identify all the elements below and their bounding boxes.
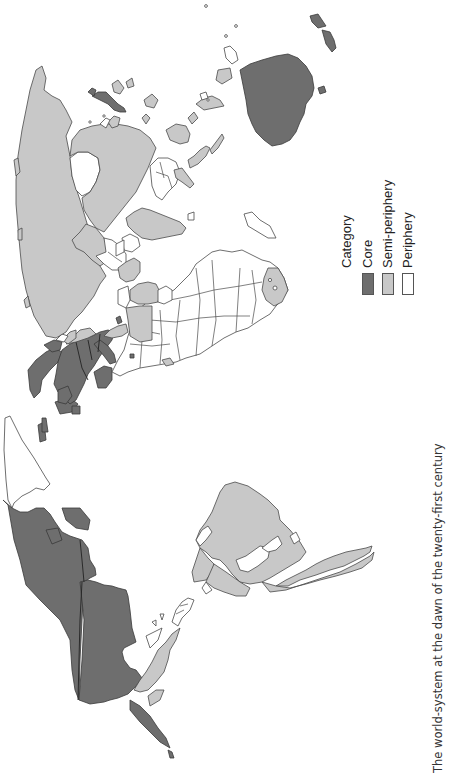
iraq-syria bbox=[118, 286, 130, 308]
south-america bbox=[192, 482, 374, 596]
cuba bbox=[146, 628, 162, 648]
png bbox=[200, 92, 208, 100]
southeast-asia bbox=[150, 158, 180, 200]
new-guinea bbox=[196, 96, 224, 110]
pacific-island-north bbox=[224, 46, 238, 64]
new-zealand-south bbox=[322, 30, 336, 52]
indonesia-sulawesi bbox=[188, 112, 198, 124]
usa bbox=[79, 580, 142, 704]
legend-label-semi-periphery: Semi-periphery bbox=[380, 180, 395, 268]
india bbox=[126, 208, 186, 240]
thailand-malaysia bbox=[174, 168, 194, 188]
philippines bbox=[112, 78, 134, 94]
figure-caption: The world-system at the dawn of the twen… bbox=[431, 444, 445, 773]
iceland bbox=[42, 418, 48, 432]
tasmania bbox=[318, 86, 326, 94]
madagascar bbox=[244, 212, 276, 238]
lesotho bbox=[273, 286, 277, 290]
legend-label-periphery: Periphery bbox=[400, 212, 415, 268]
canary-islands bbox=[130, 354, 134, 358]
legend-swatch-core bbox=[362, 273, 374, 295]
legend-swatch-periphery bbox=[402, 273, 414, 295]
iberia bbox=[94, 366, 112, 388]
pakistan bbox=[122, 234, 140, 252]
new-zealand-north bbox=[310, 14, 326, 28]
north-america bbox=[3, 398, 194, 758]
oceania bbox=[216, 14, 336, 146]
pacific-island-north-lower bbox=[216, 68, 232, 84]
japan bbox=[92, 92, 126, 112]
saudi-arabia bbox=[130, 282, 160, 304]
alaska bbox=[130, 700, 170, 748]
caribbean-islands bbox=[152, 614, 164, 626]
philippines-south bbox=[144, 94, 158, 108]
sri-lanka bbox=[188, 212, 194, 220]
hokkaido bbox=[88, 88, 96, 96]
legend-swatch-semi-periphery bbox=[382, 273, 394, 295]
finland bbox=[44, 340, 62, 352]
europe bbox=[28, 316, 128, 432]
legend-title: Category bbox=[339, 215, 354, 268]
baja-california bbox=[148, 690, 164, 706]
australia bbox=[240, 54, 314, 146]
taiwan bbox=[142, 114, 150, 124]
israel bbox=[116, 316, 122, 324]
swaziland bbox=[268, 278, 271, 281]
ireland bbox=[72, 406, 80, 414]
indonesia-java bbox=[210, 134, 224, 154]
central-america bbox=[172, 598, 194, 626]
legend-label-core: Core bbox=[360, 240, 375, 268]
indonesia-borneo bbox=[166, 124, 190, 144]
arabian-peninsula bbox=[158, 286, 172, 304]
aleutian bbox=[168, 750, 174, 758]
world-system-map bbox=[0, 0, 460, 777]
indonesia-sumatra bbox=[188, 146, 210, 168]
